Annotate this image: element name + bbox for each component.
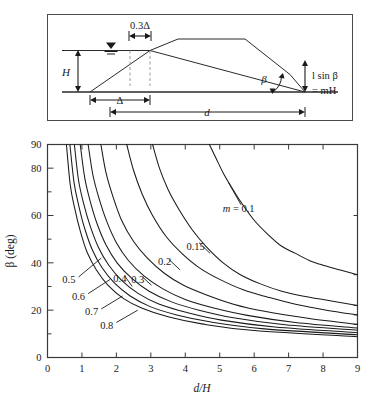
curve-label: 0.4 xyxy=(113,273,127,284)
sketch-frame xyxy=(48,15,353,121)
y-tick-label: 20 xyxy=(31,305,42,316)
curve-label: 0.6 xyxy=(72,291,85,302)
dimension-d-label: d xyxy=(204,106,210,118)
x-tick-label: 6 xyxy=(252,363,257,374)
curve-label: 0.2 xyxy=(158,256,171,267)
y-tick-label: 0 xyxy=(36,352,41,363)
x-tick-label: 5 xyxy=(217,363,222,374)
y-axis-label: β (deg) xyxy=(4,234,17,267)
curve-label: 0.8 xyxy=(100,320,113,331)
angle-beta-label: β xyxy=(260,73,267,85)
y-tick-label: 60 xyxy=(31,210,42,221)
definition-sketch-panel: H 0.3Δ Δ xyxy=(48,15,353,121)
curve-label: m = 0.1 xyxy=(223,203,255,214)
x-tick-label: 3 xyxy=(148,363,153,374)
x-tick-label: 9 xyxy=(355,363,360,374)
dimension-delta-label: Δ xyxy=(117,95,124,106)
figure-svg: H 0.3Δ Δ xyxy=(0,0,372,403)
x-axis-label: d/H xyxy=(193,382,211,394)
x-tick-label: 1 xyxy=(79,363,84,374)
x-tick-label: 2 xyxy=(114,363,119,374)
y-tick-label: 40 xyxy=(31,258,42,269)
x-tick-label: 0 xyxy=(45,363,50,374)
curve-label: 0.15 xyxy=(186,241,204,252)
x-tick-label: 7 xyxy=(286,363,291,374)
dimension-l-sin-beta-label: l sin β xyxy=(312,70,338,81)
dimension-mH-label: = mH xyxy=(312,85,337,96)
figure-container: H 0.3Δ Δ xyxy=(0,0,372,403)
curve-label: 0.3 xyxy=(131,274,144,285)
curve-label: 0.5 xyxy=(62,274,75,285)
y-tick-label: 80 xyxy=(31,163,42,174)
y-tick-label: 90 xyxy=(31,139,42,150)
x-tick-label: 4 xyxy=(183,363,189,374)
x-tick-label: 8 xyxy=(320,363,325,374)
curve-label: 0.7 xyxy=(85,306,98,317)
design-chart-panel: 0123456789 02040608090 m = 0.10.150.20.3… xyxy=(4,139,360,394)
dimension-H-label: H xyxy=(61,66,71,78)
dimension-crest-offset-label: 0.3Δ xyxy=(130,20,150,31)
